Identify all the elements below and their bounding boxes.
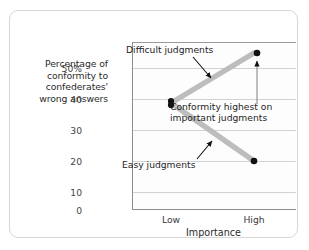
series-line-difficult-judgments <box>171 53 254 103</box>
annotation-arrow-easy <box>197 141 212 159</box>
data-point-easy-high <box>251 158 258 165</box>
annotation-arrow-difficult <box>193 57 211 78</box>
annotation-easy-judgments: Easy judgments <box>122 159 195 170</box>
annotation-callout-line-2: important judgments <box>170 112 272 123</box>
annotation-callout-line-1: Conformity highest on <box>170 101 272 112</box>
annotation-difficult-judgments: Difficult judgments <box>126 44 213 55</box>
data-point-difficult-high <box>254 50 261 57</box>
annotation-callout: Conformity highest on important judgment… <box>170 101 272 124</box>
figure-card: Percentage of conformity to confederates… <box>9 10 298 238</box>
